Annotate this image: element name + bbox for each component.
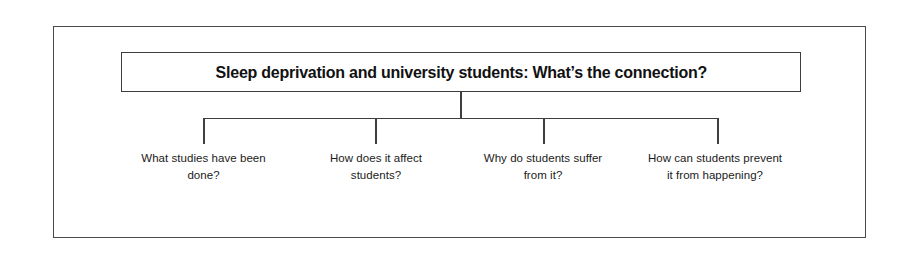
branch-label-2: How does it affect students?: [305, 150, 447, 185]
connector-leg-3: [543, 118, 545, 144]
branch-label-3: Why do students suffer from it?: [474, 150, 612, 185]
root-node-box: Sleep deprivation and university student…: [121, 52, 801, 92]
root-node-label: Sleep deprivation and university student…: [215, 64, 706, 81]
diagram-canvas: Sleep deprivation and university student…: [0, 0, 917, 256]
connector-leg-1: [203, 118, 205, 144]
connector-bus: [203, 118, 718, 120]
connector-leg-4: [717, 118, 719, 144]
branch-label-1: What studies have been done?: [131, 150, 276, 185]
connector-leg-2: [375, 118, 377, 144]
connector-stem: [460, 92, 462, 119]
branch-label-4: How can students prevent it from happeni…: [645, 150, 785, 185]
